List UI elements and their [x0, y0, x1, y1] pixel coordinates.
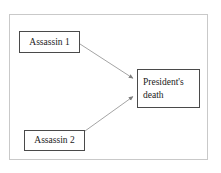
diagram-canvas: Assassin 1 Assassin 2 President's death — [0, 0, 221, 173]
node-assassin-2[interactable]: Assassin 2 — [24, 130, 85, 151]
node-president-death-line-1: President's — [143, 77, 184, 87]
node-president-death[interactable]: President's death — [137, 69, 200, 108]
node-president-death-label: President's death — [143, 76, 199, 100]
node-assassin-1[interactable]: Assassin 1 — [19, 31, 80, 53]
node-president-death-line-2: death — [143, 90, 164, 100]
node-assassin-1-label: Assassin 1 — [20, 36, 79, 48]
node-assassin-2-label: Assassin 2 — [25, 134, 84, 146]
